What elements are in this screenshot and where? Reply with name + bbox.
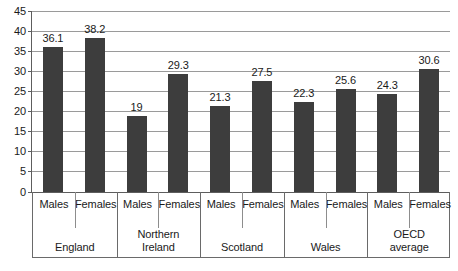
bar (377, 94, 397, 192)
bar (85, 38, 105, 192)
bar-value-label: 24.3 (364, 80, 410, 91)
y-tick-mark-35 (28, 51, 32, 52)
bar (294, 102, 314, 192)
y-tick-label-25: 25 (0, 86, 26, 97)
bar (127, 116, 147, 192)
group-label-row: EnglandNorthern IrelandScotlandWalesOECD… (33, 217, 449, 257)
group-label-northern-ireland: Northern Ireland (117, 217, 201, 257)
bar (336, 89, 356, 192)
y-tick-mark-10 (28, 151, 32, 152)
group-label-england: England (33, 217, 117, 257)
bar-value-label: 30.6 (406, 55, 452, 66)
category-label-table: MalesFemalesMalesFemalesMalesFemalesMale… (32, 192, 450, 258)
bar-value-label: 22.3 (281, 88, 327, 99)
sex-label-females-7: Females (326, 192, 368, 217)
y-tick-label-30: 30 (0, 66, 26, 77)
sex-label-females-5: Females (242, 192, 284, 217)
bar-value-label: 25.6 (323, 75, 369, 86)
bar-value-label: 27.5 (239, 67, 285, 78)
y-tick-mark-45 (28, 11, 32, 12)
group-label-scotland: Scotland (200, 217, 284, 257)
y-tick-mark-15 (28, 131, 32, 132)
y-tick-mark-5 (28, 171, 32, 172)
y-tick-label-45: 45 (0, 6, 26, 17)
sex-label-females-9: Females (409, 192, 451, 217)
y-tick-mark-20 (28, 111, 32, 112)
sex-label-row: MalesFemalesMalesFemalesMalesFemalesMale… (33, 192, 449, 217)
y-tick-label-10: 10 (0, 146, 26, 157)
group-label-wales: Wales (284, 217, 368, 257)
y-tick-label-40: 40 (0, 26, 26, 37)
sex-label-males-2: Males (117, 192, 159, 217)
sex-label-females-1: Females (75, 192, 117, 217)
bar-value-label: 21.3 (197, 92, 243, 103)
bar-value-label: 29.3 (155, 60, 201, 71)
y-tick-label-5: 5 (0, 166, 26, 177)
bar-value-label: 19 (114, 102, 160, 113)
bar-value-label: 38.2 (72, 24, 118, 35)
group-label-oecd-average: OECD average (367, 217, 451, 257)
sex-label-males-0: Males (33, 192, 75, 217)
bar (210, 106, 230, 192)
y-tick-mark-25 (28, 91, 32, 92)
bar (252, 81, 272, 192)
y-tick-label-20: 20 (0, 106, 26, 117)
y-tick-mark-40 (28, 31, 32, 32)
y-tick-label-35: 35 (0, 46, 26, 57)
sex-label-males-8: Males (367, 192, 409, 217)
y-tick-label-0: 0 (0, 187, 26, 198)
sex-label-females-3: Females (158, 192, 200, 217)
y-tick-mark-30 (28, 71, 32, 72)
sex-label-males-6: Males (284, 192, 326, 217)
bar (43, 47, 63, 192)
bar-value-label: 36.1 (30, 33, 76, 44)
gridline-45 (32, 11, 450, 12)
bar (168, 74, 188, 192)
bar (419, 69, 439, 192)
sex-label-males-4: Males (200, 192, 242, 217)
y-tick-label-15: 15 (0, 126, 26, 137)
bar-chart: 051015202530354045 36.138.21929.321.327.… (0, 0, 458, 271)
